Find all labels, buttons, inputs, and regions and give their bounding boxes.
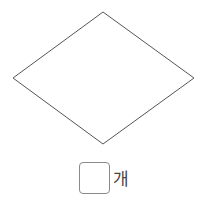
rhombus-outline <box>13 12 194 144</box>
unit-label: 개 <box>113 169 129 189</box>
answer-input-box[interactable] <box>79 162 110 194</box>
